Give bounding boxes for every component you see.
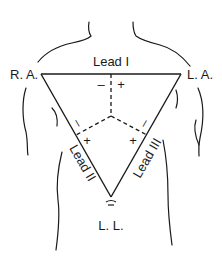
left-arm-label: L. A.: [187, 67, 213, 82]
einthoven-triangle-diagram: Lead I R. A. L. A. L. L. – + – + – + Lea…: [0, 0, 222, 257]
lead2-positive-sign: +: [83, 133, 91, 148]
lead2-negative-sign: –: [70, 116, 87, 130]
dashed-axes: [76, 74, 147, 135]
lead2-line: [41, 74, 111, 197]
lead1-positive-sign: +: [117, 77, 125, 92]
lead3-negative-sign: –: [135, 115, 152, 129]
lead3-positive-sign: +: [129, 133, 137, 148]
lead2-label: Lead II: [66, 142, 99, 184]
left-leg-label: L. L.: [98, 218, 123, 233]
lead1-label: Lead I: [93, 54, 129, 69]
right-arm-label: R. A.: [10, 67, 38, 82]
lead3-line: [111, 74, 181, 197]
triangle: [41, 74, 181, 197]
ground-symbol-icon: [106, 201, 116, 206]
lead1-negative-sign: –: [97, 77, 105, 92]
